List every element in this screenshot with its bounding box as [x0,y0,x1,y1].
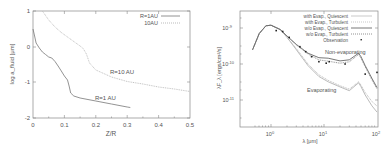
legend-evap-quiescent-label: with Evap., Quiescent [304,14,349,19]
right-plot: 10-9 10-10 10-11 100 101 102 λ [μm] λF_λ… [216,11,381,144]
legend-10au-label: 10AU [144,20,158,26]
figure: 1 0 -1 -2 0 0.1 0.2 0.3 0.4 0.5 Z/R log … [0,0,385,144]
right-xtick-1e1: 101 [319,130,328,138]
annotation-r1au: R=1 AU [95,95,116,101]
legend-evap-turbulent-label: with Evap., Turbulent [305,20,349,25]
legend-r1au-label: R=1AU [140,13,158,19]
annotation-r10au: R=10 AU [110,69,134,75]
left-plot-frame [33,11,190,118]
legend-noevap-turbulent-label: w/o Evap., Turbulent [306,32,349,37]
left-ytick-m1: -1 [25,79,31,85]
annotation-evaporating: Evaporating [307,87,336,93]
annotation-non-evaporating: Non-evaporating [325,49,366,55]
legend-noevap-quiescent-label: w/o Evap., Quiescent [305,26,349,31]
curve-evap-quiescent [253,25,377,112]
right-x-tick-labels: 100 101 102 [266,130,381,138]
left-ytick-0: 0 [27,44,31,50]
left-x-ticks [49,11,175,118]
right-ytick-1e-9: 10-9 [222,24,232,32]
right-xtick-1e2: 102 [372,130,381,138]
left-x-axis-label: Z/R [106,130,117,137]
left-y-axis-label: log a_fluid [μm] [9,43,15,84]
left-xtick-03: 0.3 [123,122,132,128]
left-xtick-0: 0 [31,122,35,128]
right-legend: with Evap., Quiescent with Evap., Turbul… [304,14,372,43]
right-x-axis-label: λ [μm] [302,138,318,144]
right-ytick-1e-10: 10-10 [222,60,235,68]
left-xtick-01: 0.1 [60,122,69,128]
right-xtick-1e0: 100 [266,130,275,138]
left-x-tick-labels: 0 0.1 0.2 0.3 0.4 0.5 [31,122,195,128]
legend-observation-label: Observation [323,38,348,43]
left-xtick-05: 0.5 [186,122,195,128]
left-ytick-1: 1 [27,8,31,14]
curve-evap-turbulent [253,25,377,106]
legend-observation-marker [361,39,362,40]
left-legend: R=1AU 10AU [140,13,180,26]
right-y-tick-labels: 10-9 10-10 10-11 [222,24,235,104]
right-y-axis-label: λF_λ [ergs/cm²/s] [216,46,222,89]
left-ytick-m2: -2 [25,115,31,121]
left-xtick-04: 0.4 [154,122,163,128]
left-y-ticks [33,11,190,118]
left-y-tick-labels: 1 0 -1 -2 [25,8,31,121]
left-xtick-02: 0.2 [92,122,101,128]
left-plot: 1 0 -1 -2 0 0.1 0.2 0.3 0.4 0.5 Z/R log … [9,8,195,137]
right-ytick-1e-11: 10-11 [222,96,234,104]
